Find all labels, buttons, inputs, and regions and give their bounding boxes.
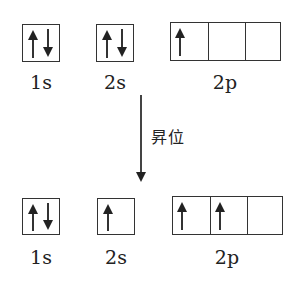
electron-spin-down-icon — [121, 29, 123, 51]
electron-spin-up-icon — [107, 210, 109, 231]
promotion-label: 昇位 — [151, 124, 185, 148]
orbital-2p-cell-1 — [171, 23, 208, 60]
orbital-2p-cell-2 — [210, 197, 247, 234]
electron-spin-up-icon — [181, 208, 183, 230]
orbital-2p-box-excited — [172, 196, 283, 235]
electron-spin-down-icon — [47, 203, 49, 224]
orbital-label-2s-excited: 2s — [91, 247, 141, 267]
electron-spin-up-icon — [32, 210, 34, 231]
electron-spin-up-icon — [179, 34, 181, 56]
orbital-label-2s-ground: 2s — [90, 72, 140, 92]
orbital-2s-box-excited — [97, 198, 135, 235]
promotion-arrow-icon — [140, 95, 142, 173]
orbital-2p-cell-3 — [245, 23, 282, 60]
electron-spin-up-icon — [32, 36, 34, 58]
electron-spin-down-icon — [47, 29, 49, 51]
orbital-label-1s-excited: 1s — [16, 247, 66, 267]
orbital-2s-box-ground — [96, 24, 134, 62]
orbital-2p-cell-3 — [247, 197, 284, 234]
orbital-1s-box-excited — [22, 198, 60, 235]
orbital-2p-cell-2 — [208, 23, 245, 60]
orbital-label-1s-ground: 1s — [16, 72, 66, 92]
orbital-label-2p-excited: 2p — [202, 247, 252, 267]
electron-spin-up-icon — [106, 36, 108, 58]
orbital-1s-box-ground — [22, 24, 60, 62]
orbital-label-2p-ground: 2p — [200, 72, 250, 92]
electron-spin-up-icon — [219, 208, 221, 230]
orbital-2p-cell-1 — [173, 197, 210, 234]
orbital-2p-box-ground — [170, 22, 281, 61]
